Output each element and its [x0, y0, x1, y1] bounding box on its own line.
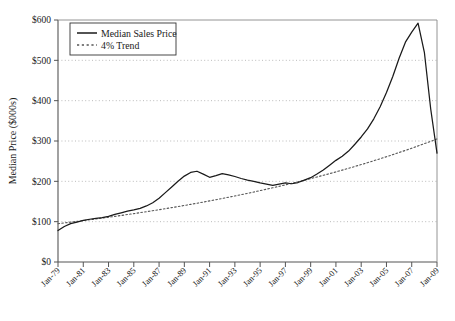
x-tick-label: Jan-07 — [392, 265, 416, 289]
legend-label-4-trend: 4% Trend — [101, 40, 139, 51]
y-axis-label: Median Price ($000s) — [7, 98, 19, 185]
line-chart: $0$100$200$300$400$500$600 Jan-79Jan-81J… — [0, 0, 455, 321]
legend: Median Sales Price 4% Trend — [70, 23, 177, 55]
y-axis-ticks: $0$100$200$300$400$500$600 — [32, 15, 58, 267]
x-tick-label: Jan-05 — [367, 265, 390, 288]
x-tick-label: Jan-93 — [216, 265, 239, 288]
legend-label-median-sales-price: Median Sales Price — [101, 28, 177, 39]
x-tick-label: Jan-09 — [418, 265, 441, 288]
chart-container: $0$100$200$300$400$500$600 Jan-79Jan-81J… — [0, 0, 455, 321]
x-axis-ticks: Jan-79Jan-81Jan-83Jan-85Jan-87Jan-89Jan-… — [39, 262, 441, 289]
y-tick-label: $100 — [32, 217, 51, 227]
x-tick-label: Jan-91 — [190, 265, 213, 288]
series-line-4-trend — [58, 139, 437, 224]
y-tick-label: $200 — [32, 177, 51, 187]
x-tick-label: Jan-87 — [140, 265, 164, 289]
y-tick-label: $600 — [32, 15, 51, 25]
x-tick-label: Jan-79 — [39, 265, 62, 288]
y-tick-label: $500 — [32, 56, 51, 66]
x-tick-label: Jan-01 — [317, 265, 340, 288]
y-tick-label: $400 — [32, 96, 51, 106]
x-tick-label: Jan-89 — [165, 265, 188, 288]
gridlines — [58, 60, 437, 221]
y-tick-label: $300 — [32, 136, 51, 146]
x-tick-label: Jan-97 — [266, 265, 290, 289]
x-tick-label: Jan-85 — [114, 265, 137, 288]
x-tick-label: Jan-81 — [64, 265, 87, 288]
x-tick-label: Jan-83 — [89, 265, 112, 288]
y-tick-label: $0 — [42, 257, 52, 267]
x-tick-label: Jan-99 — [291, 265, 314, 288]
x-tick-label: Jan-03 — [342, 265, 365, 288]
x-tick-label: Jan-95 — [241, 265, 264, 288]
axis-lines — [58, 20, 437, 262]
